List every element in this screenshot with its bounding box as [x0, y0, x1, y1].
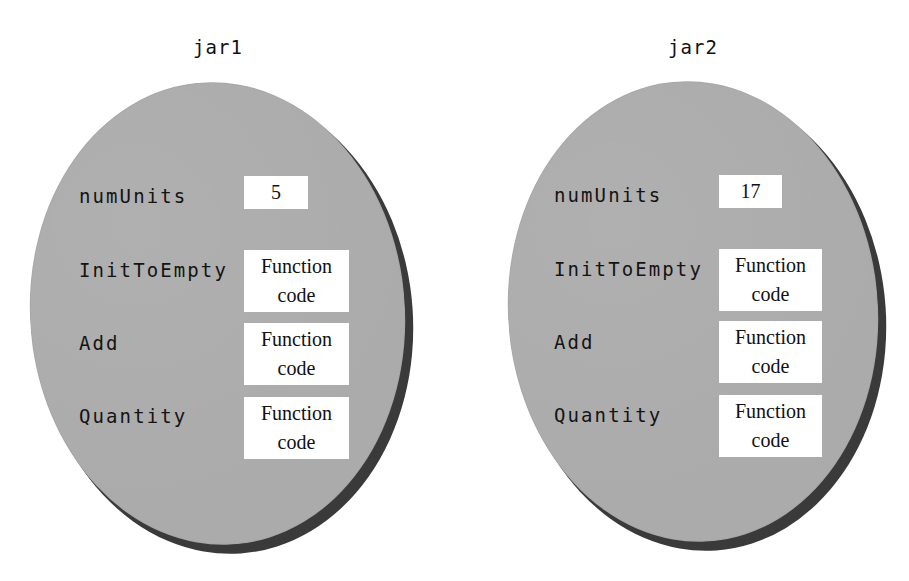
function-code-line1: Function [735, 251, 806, 280]
member-label-inittoempty: InitToEmpty [554, 258, 703, 280]
numunits-value: 17 [741, 180, 761, 203]
member-label-quantity: Quantity [554, 404, 662, 426]
numunits-value-box: 17 [719, 175, 782, 208]
jar-object-2: jar2 numUnits 17 InitToEmpty Function co… [0, 0, 455, 581]
function-code-box-add: Function code [719, 321, 822, 383]
member-label-add: Add [554, 331, 595, 353]
function-code-line2: code [752, 352, 790, 381]
member-label-numunits: numUnits [554, 184, 662, 206]
function-code-line2: code [752, 280, 790, 309]
function-code-line1: Function [735, 397, 806, 426]
function-code-line2: code [752, 426, 790, 455]
function-code-box-inittoempty: Function code [719, 249, 822, 311]
jar-title: jar2 [668, 36, 718, 58]
function-code-box-quantity: Function code [719, 395, 822, 457]
function-code-line1: Function [735, 323, 806, 352]
